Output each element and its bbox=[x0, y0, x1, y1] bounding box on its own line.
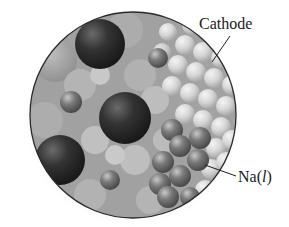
sodium-liquid-label: Na(l) bbox=[238, 169, 272, 185]
molecular-view-circle bbox=[0, 0, 289, 227]
sodium-symbol: Na( bbox=[238, 168, 262, 185]
sodium-close: ) bbox=[266, 168, 271, 185]
cathode-label: Cathode bbox=[199, 16, 252, 32]
diagram: Cathode Na(l) bbox=[0, 0, 289, 227]
